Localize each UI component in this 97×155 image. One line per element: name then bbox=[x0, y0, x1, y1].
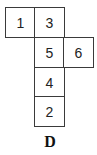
net-face-6: 6 bbox=[63, 37, 94, 68]
net-face-2: 2 bbox=[34, 96, 65, 127]
option-label: D bbox=[0, 133, 97, 151]
net-face-1: 1 bbox=[5, 7, 36, 38]
net-face-5: 5 bbox=[34, 37, 65, 68]
net-face-4: 4 bbox=[34, 67, 65, 98]
net-face-3: 3 bbox=[34, 7, 65, 38]
